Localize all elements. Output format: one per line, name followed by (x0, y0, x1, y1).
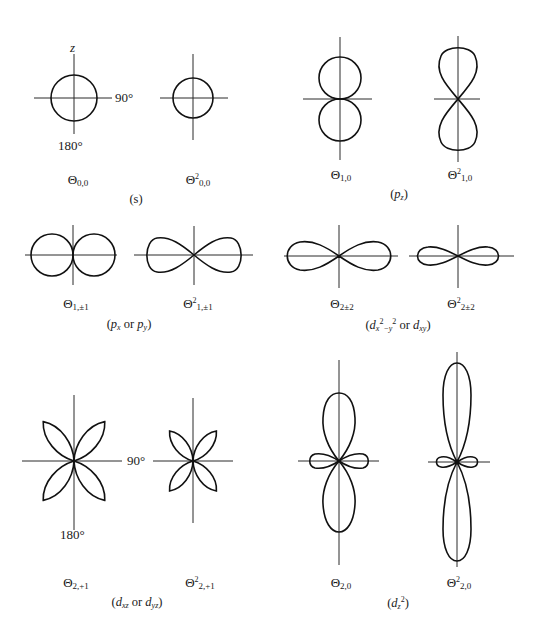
z-axis-label: z (70, 40, 75, 56)
polar-plots-canvas (0, 0, 536, 640)
label-theta-1-pm1: Θ1,±1 (63, 296, 89, 312)
plot-theta-squared-2-0 (428, 352, 490, 567)
plot-theta-1-0 (303, 37, 372, 160)
label-theta-0-0: Θ0,0 (68, 172, 89, 188)
plot-theta-2-pm2 (284, 225, 398, 288)
angle-90-label-top: 90° (115, 90, 133, 106)
plot-theta-2-0 (298, 360, 379, 565)
label-theta-2-plus1: Θ2,+1 (63, 575, 89, 591)
label-theta-squared-1-0: Θ21,0 (448, 167, 473, 183)
group-label-px-or-py: (px or py) (107, 317, 152, 332)
plot-theta-1-pm1 (25, 225, 117, 285)
plot-theta-squared-1-pm1 (134, 226, 253, 285)
label-theta-squared-2-plus1: Θ22,+1 (185, 575, 215, 591)
label-theta-squared-0-0: Θ20,0 (186, 172, 211, 188)
plot-theta-squared-2-pm2 (409, 225, 514, 288)
group-label-pz: (pz) (390, 187, 408, 202)
group-label-dxz-or-dyz: (dxz or dyz) (112, 595, 163, 610)
plot-theta-2-plus1 (22, 395, 122, 530)
label-theta-squared-2-pm2: Θ22±2 (447, 296, 474, 312)
group-label-dx2y2-or-dxy: (dx2−y2 or dxy) (365, 317, 430, 333)
angle-90-label-bottom: 90° (127, 453, 145, 469)
label-theta-2-0: Θ2,0 (331, 575, 352, 591)
plot-theta-squared-0-0 (160, 54, 228, 140)
angle-180-label-bottom: 180° (60, 527, 85, 543)
label-theta-squared-1-pm1: Θ21,±1 (183, 296, 213, 312)
angle-180-label-top: 180° (58, 138, 83, 154)
plot-theta-0-0 (34, 54, 112, 134)
plot-theta-squared-2-plus1 (153, 398, 233, 523)
label-theta-2-pm2: Θ2±2 (330, 296, 353, 312)
label-theta-1-0: Θ1,0 (331, 167, 352, 183)
plot-theta-squared-1-0 (434, 36, 480, 162)
group-label-dz2: (dz2) (387, 595, 409, 611)
label-theta-squared-2-0: Θ22,0 (447, 575, 472, 591)
group-label-s: (s) (129, 192, 142, 207)
